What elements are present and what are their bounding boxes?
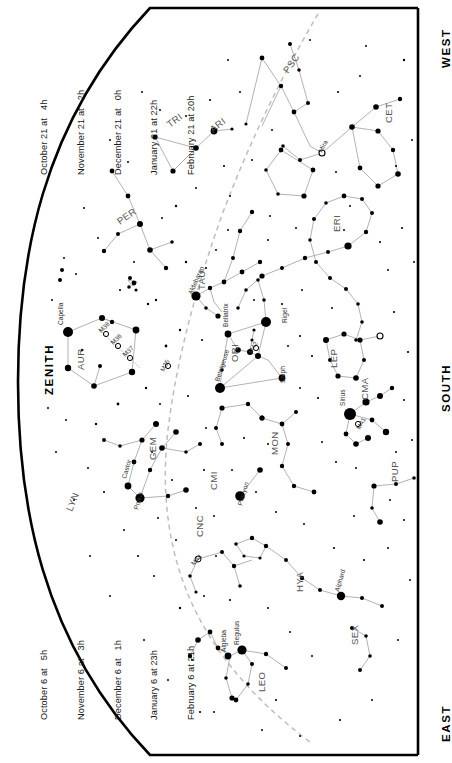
- label-cet: CET: [383, 103, 394, 123]
- label-sex: SEX: [349, 624, 360, 645]
- cardinal-zenith: ZENITH: [43, 344, 55, 395]
- cardinal-west: WEST: [440, 28, 452, 68]
- date-line: October 21 at 4h: [38, 90, 50, 175]
- cardinal-south: SOUTH: [440, 364, 452, 412]
- label-cmi: CMI: [208, 471, 219, 490]
- date-line: November 21 at 2h: [75, 90, 87, 175]
- label-leo: LEO: [256, 672, 267, 692]
- date-line: November 6 at 3h: [75, 640, 87, 720]
- star-label-rigel: Rigel: [281, 307, 289, 323]
- label-cnc: CNC: [194, 515, 205, 537]
- label-ori: ORI: [229, 344, 240, 362]
- date-line: February 21 at 20h: [185, 90, 197, 175]
- date-line: December 21 at 0h: [112, 90, 124, 175]
- label-hya: HYA: [294, 572, 305, 592]
- upper-date-block: October 21 at 4h November 21 at 2h Decem…: [14, 90, 221, 175]
- star-label-sirius: Sirius: [339, 389, 346, 406]
- star-label-bellatrix: Bellatrix: [222, 303, 229, 327]
- date-line: January 21 at 22h: [148, 90, 160, 175]
- star-label-saiph: Saiph: [279, 366, 287, 383]
- date-line: February 6 at 21h: [185, 640, 197, 720]
- date-line: December 6 at 1h: [112, 640, 124, 720]
- lower-date-block: October 6 at 5h November 6 at 3h Decembe…: [14, 640, 221, 720]
- label-aur: AUR: [75, 349, 86, 370]
- star-label-capella: Capella: [57, 302, 65, 325]
- date-line: October 6 at 5h: [38, 640, 50, 720]
- label-pup: PUP: [389, 461, 400, 482]
- cardinal-east: EAST: [440, 705, 452, 742]
- label-gem: GEM: [147, 437, 158, 460]
- label-mon: MON: [269, 431, 280, 455]
- date-line: January 6 at 23h: [148, 640, 160, 720]
- label-eri: ERI: [331, 215, 342, 232]
- label-lep: LEP: [328, 349, 339, 368]
- star-label-regulus: Regulus: [233, 620, 241, 645]
- label-cma: CMA: [359, 377, 370, 400]
